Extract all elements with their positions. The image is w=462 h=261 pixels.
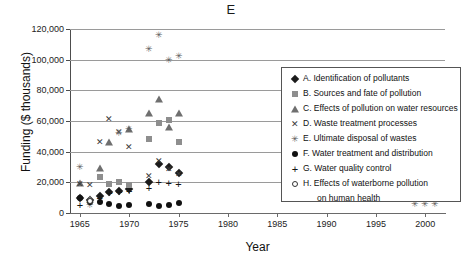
data-point-g: + xyxy=(175,178,181,189)
x-tick-mark xyxy=(277,213,278,217)
legend-label: E. Ultimate disposal of wastes xyxy=(303,133,416,144)
chart-legend: A. Identification of pollutantsB. Source… xyxy=(281,67,461,202)
data-point-b xyxy=(156,120,162,126)
legend-item-e[interactable]: ✳E. Ultimate disposal of wastes xyxy=(282,133,460,148)
x-tick-mark xyxy=(80,213,81,217)
data-point-d: ✕ xyxy=(76,179,84,188)
data-point-c xyxy=(165,124,173,131)
legend-label: G. Water quality control xyxy=(303,163,392,174)
data-point-e: ✳ xyxy=(115,128,123,137)
legend-symbol-icon xyxy=(291,75,299,83)
y-tick-mark xyxy=(66,29,70,30)
y-tick-mark xyxy=(66,182,70,183)
legend-label: C. Effects of pollution on water resourc… xyxy=(303,103,458,114)
data-point-c xyxy=(145,110,153,117)
y-tick-mark xyxy=(66,152,70,153)
x-tick-mark xyxy=(228,213,229,217)
legend-label: H. Effects of waterborne pollution xyxy=(303,178,428,189)
data-point-c xyxy=(96,164,104,171)
data-point-d: ✕ xyxy=(155,156,163,165)
y-tick-label: 20,000 xyxy=(36,177,64,187)
data-point-f xyxy=(166,202,172,208)
data-point-e: ✳ xyxy=(165,56,173,65)
data-point-f xyxy=(146,201,152,207)
data-point-d: ✕ xyxy=(105,114,113,123)
plot-area: 020,00040,00060,00080,000100,000120,000 … xyxy=(70,29,445,213)
legend-marker-open-circle-icon xyxy=(289,179,303,190)
x-tick-mark xyxy=(129,213,130,217)
data-point-g: + xyxy=(146,183,152,194)
y-axis-label: Funding ($ thousands) xyxy=(19,22,33,202)
y-tick-label: 0 xyxy=(59,208,64,218)
legend-symbol-icon: + xyxy=(292,164,298,175)
page-title: E xyxy=(0,2,462,17)
data-point-g: + xyxy=(165,178,171,189)
data-point-d: ✕ xyxy=(125,143,133,152)
legend-item-g[interactable]: +G. Water quality control xyxy=(282,163,460,178)
data-point-f xyxy=(116,203,122,209)
data-point-g: + xyxy=(156,176,162,187)
x-tick-mark xyxy=(425,213,426,217)
legend-item-a[interactable]: A. Identification of pollutants xyxy=(282,73,460,88)
data-point-f xyxy=(176,200,182,206)
data-point-g: + xyxy=(116,186,122,197)
data-point-g: + xyxy=(77,200,83,211)
data-point-f xyxy=(156,203,162,209)
legend-symbol-icon xyxy=(291,106,299,113)
x-tick-label: 2000 xyxy=(415,219,435,229)
y-tick-label: 40,000 xyxy=(36,147,64,157)
data-point-b xyxy=(176,139,182,145)
data-point-c xyxy=(155,95,163,102)
data-point-g: + xyxy=(126,185,132,196)
data-point-g: + xyxy=(106,188,112,199)
y-tick-label: 80,000 xyxy=(36,85,64,95)
x-tick-label: 1990 xyxy=(317,219,337,229)
gridline xyxy=(70,60,445,61)
legend-label-continued: on human health xyxy=(289,193,380,204)
data-point-b xyxy=(146,136,152,142)
y-tick-mark xyxy=(66,121,70,122)
y-tick-label: 60,000 xyxy=(36,116,64,126)
legend-symbol-icon: ✕ xyxy=(291,120,299,129)
legend-item-c[interactable]: C. Effects of pollution on water resourc… xyxy=(282,103,460,118)
legend-item-b[interactable]: B. Sources and fate of pollution xyxy=(282,88,460,103)
data-point-e: ✳ xyxy=(76,163,84,172)
y-tick-mark xyxy=(66,213,70,214)
legend-symbol-icon xyxy=(292,181,298,187)
x-tick-mark xyxy=(327,213,328,217)
legend-item-d[interactable]: ✕D. Waste treatment processes xyxy=(282,118,460,133)
legend-symbol-icon xyxy=(292,151,298,157)
legend-label: D. Waste treatment processes xyxy=(303,118,417,129)
legend-item-f[interactable]: F. Water treatment and distribution xyxy=(282,148,460,163)
legend-marker-square-icon xyxy=(289,89,303,100)
x-axis-line xyxy=(70,213,446,214)
data-point-b xyxy=(166,117,172,123)
legend-marker-circle-icon xyxy=(289,149,303,160)
data-point-d: ✕ xyxy=(165,164,173,173)
data-point-e: ✳ xyxy=(145,44,153,53)
data-point-b xyxy=(97,174,103,180)
legend-marker-diamond-icon xyxy=(289,74,303,85)
chart-page: E Funding ($ thousands) Year 020,00040,0… xyxy=(0,0,462,261)
x-tick-label: 1970 xyxy=(119,219,139,229)
legend-marker-x-icon: ✕ xyxy=(289,119,303,130)
legend-marker-plus-icon: + xyxy=(289,164,303,175)
legend-item-h[interactable]: H. Effects of waterborne pollution xyxy=(282,178,460,193)
legend-symbol-icon: ✳ xyxy=(291,135,299,144)
data-point-c xyxy=(105,138,113,145)
legend-symbol-icon xyxy=(292,91,298,97)
y-tick-mark xyxy=(66,90,70,91)
data-point-c xyxy=(175,109,183,116)
legend-marker-star-x-icon: ✳ xyxy=(289,134,303,145)
data-point-f xyxy=(126,202,132,208)
legend-label: A. Identification of pollutants xyxy=(303,73,409,84)
data-point-h xyxy=(87,198,93,204)
data-point-e: ✳ xyxy=(155,31,163,40)
data-point-d: ✕ xyxy=(86,180,94,189)
data-point-e: ✳ xyxy=(125,125,133,134)
x-tick-label: 1980 xyxy=(218,219,238,229)
x-tick-label: 1975 xyxy=(169,219,189,229)
x-tick-label: 1995 xyxy=(366,219,386,229)
legend-item-h-line2: on human health xyxy=(282,193,460,208)
x-tick-label: 1965 xyxy=(70,219,90,229)
